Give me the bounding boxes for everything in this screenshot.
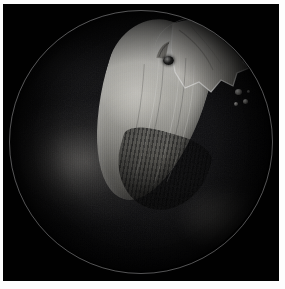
- specimen-lower-striated-texture: [106, 121, 216, 221]
- field-of-view-shape-label: circle: [0, 0, 1, 1]
- bright-speck: [243, 99, 248, 104]
- bright-speck: [247, 90, 250, 93]
- endoscopic-image-viewer: pale elongated specimen circle single-po…: [0, 0, 285, 289]
- scene-illumination-label: single-point endoscopic light, falloff t…: [0, 0, 1, 1]
- bright-speck: [234, 102, 238, 106]
- image-plate: [3, 4, 279, 281]
- specimen-layer: [3, 4, 279, 281]
- specimen-label: pale elongated specimen: [0, 0, 1, 1]
- bright-speck: [235, 89, 242, 95]
- specimen-eye-spot: [163, 56, 174, 65]
